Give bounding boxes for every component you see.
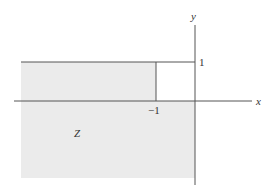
region-label-z: Z [74,127,81,139]
y-axis-label: y [190,10,196,22]
complex-plane-diagram: y x 1 −1 Z [0,0,276,195]
x-axis-label: x [255,95,261,107]
shaded-region-lower [21,101,195,178]
shaded-region-upper [21,62,156,101]
tick-label-xm1: −1 [148,104,160,116]
tick-label-y1: 1 [199,56,205,68]
